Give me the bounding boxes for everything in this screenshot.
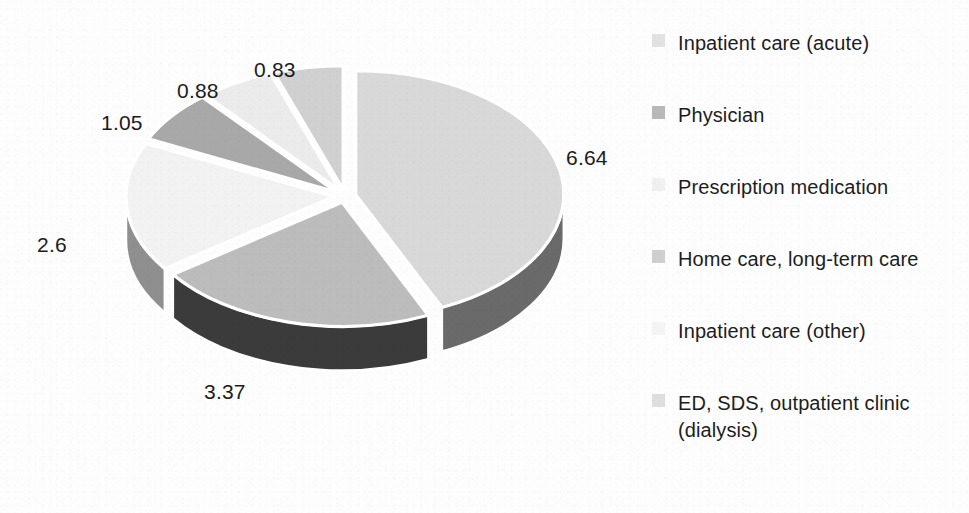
data-label-prescription-medication: 2.6: [37, 233, 67, 257]
data-label-ed-sds: 0.83: [254, 58, 296, 82]
legend-item-label: Home care, long-term care: [678, 246, 918, 273]
legend-item: ED, SDS, outpatient clinic (dialysis): [652, 390, 962, 462]
legend-swatch-prescription-medication: [652, 178, 665, 191]
legend-item: Home care, long-term care: [652, 246, 962, 318]
legend-item: Prescription medication: [652, 174, 962, 246]
data-label-inpatient-acute: 6.64: [566, 146, 608, 170]
legend-item-label: Inpatient care (other): [678, 318, 866, 345]
legend-swatch-ed-sds: [652, 394, 665, 407]
legend-swatch-inpatient-acute: [652, 34, 665, 47]
legend-item-label: Physician: [678, 102, 765, 129]
legend-item: Physician: [652, 102, 962, 174]
legend-item: Inpatient care (other): [652, 318, 962, 390]
data-label-physician: 3.37: [204, 380, 246, 404]
legend-swatch-inpatient-other: [652, 322, 665, 335]
data-label-home-care: 1.05: [101, 111, 143, 135]
legend-swatch-home-care: [652, 250, 665, 263]
legend-item-label: ED, SDS, outpatient clinic (dialysis): [678, 390, 962, 444]
pie-chart: 6.64 3.37 2.6 1.05 0.88 0.83: [0, 0, 640, 513]
pie-chart-svg: [0, 0, 640, 513]
legend-item-label: Prescription medication: [678, 174, 888, 201]
legend-item-label: Inpatient care (acute): [678, 30, 869, 57]
chart-legend: Inpatient care (acute)PhysicianPrescript…: [652, 30, 962, 462]
data-label-inpatient-other: 0.88: [177, 79, 219, 103]
legend-item: Inpatient care (acute): [652, 30, 962, 102]
legend-swatch-physician: [652, 106, 665, 119]
